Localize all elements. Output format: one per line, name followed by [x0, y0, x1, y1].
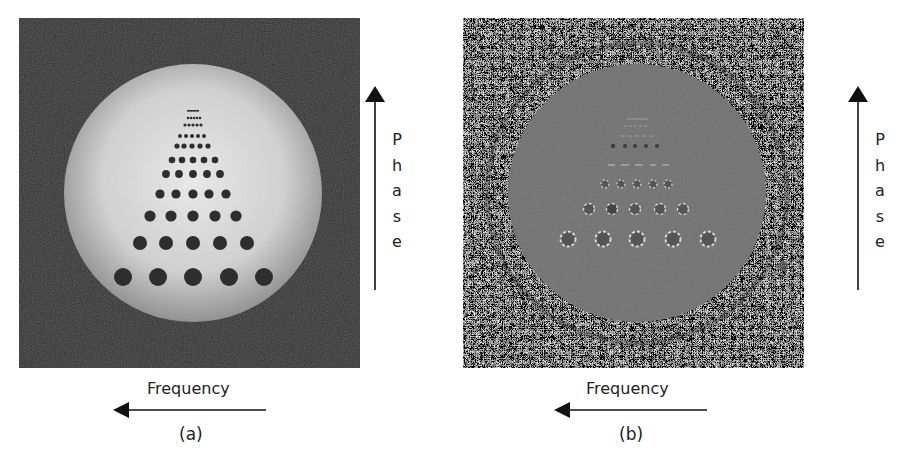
- phase-letter: e: [872, 229, 888, 255]
- panel-caption-a: (a): [179, 424, 203, 444]
- phase-letter: h: [872, 153, 888, 179]
- phase-axis-label: P h a s e: [872, 127, 888, 255]
- phase-arrow-icon: [365, 86, 385, 292]
- phase-axis-label: P h a s e: [389, 127, 405, 255]
- magnitude-phantom-image: [19, 18, 360, 368]
- phase-letter: a: [389, 178, 405, 204]
- phase-arrow-icon: [848, 86, 868, 292]
- magnitude-image-panel: [19, 18, 360, 368]
- frequency-axis-label: Frequency: [586, 379, 669, 398]
- phase-phantom-image: [463, 18, 804, 368]
- phase-letter: P: [872, 127, 888, 153]
- phase-letter: a: [872, 178, 888, 204]
- phase-letter: P: [389, 127, 405, 153]
- panel-caption-b: (b): [619, 424, 643, 444]
- frequency-arrow-icon: [554, 402, 710, 418]
- frequency-axis-label: Frequency: [147, 379, 230, 398]
- phase-letter: s: [872, 204, 888, 230]
- phase-letter: h: [389, 153, 405, 179]
- frequency-arrow-icon: [113, 402, 269, 418]
- phase-image-panel: [463, 18, 804, 368]
- phase-letter: s: [389, 204, 405, 230]
- phase-letter: e: [389, 229, 405, 255]
